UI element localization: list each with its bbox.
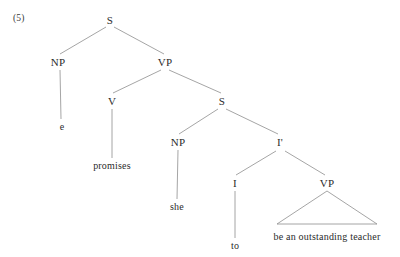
- tree-branch-s-embedded-to-i-bar: [226, 109, 278, 134]
- tree-node-np-matrix: NP: [51, 56, 66, 68]
- tree-node-i-head: I: [233, 177, 237, 189]
- tree-node-vp-embedded: VP: [320, 177, 335, 189]
- tree-leaf-leaf-e: e: [60, 121, 65, 132]
- tree-node-vp-matrix: VP: [158, 56, 173, 68]
- tree-branch-np-embedded-to-leaf-she: [177, 150, 178, 199]
- tree-node-i-bar: I': [277, 136, 283, 148]
- triangle-group: [277, 191, 377, 224]
- tree-leaf-leaf-vp-phrase: be an outstanding teacher: [274, 231, 381, 242]
- tree-leaf-leaf-promises: promises: [93, 160, 131, 171]
- tree-leaf-leaf-to: to: [231, 240, 239, 251]
- tree-branch-vp-matrix-to-s-embedded: [169, 70, 221, 93]
- branch-group: [60, 27, 325, 238]
- tree-leaf-leaf-she: she: [170, 201, 184, 212]
- tree-node-s-root: S: [107, 14, 113, 26]
- syntax-tree-figure: (5) SNPVPVSNPI'IVP epromisesshetobe an o…: [0, 0, 400, 257]
- tree-branch-vp-matrix-to-v-matrix: [113, 70, 161, 93]
- tree-node-np-embedded: NP: [171, 136, 186, 148]
- tree-node-v-matrix: V: [108, 95, 116, 107]
- tree-triangle-vp-triangle: [277, 191, 377, 224]
- tree-branch-s-root-to-np-matrix: [60, 27, 106, 54]
- tree-branch-i-bar-to-i-head: [236, 151, 276, 175]
- tree-branch-s-root-to-vp-matrix: [114, 27, 164, 54]
- tree-node-s-embedded: S: [219, 95, 225, 107]
- tree-branch-i-bar-to-vp-embedded: [285, 151, 325, 175]
- tree-branch-s-embedded-to-np-embedded: [179, 109, 218, 134]
- tree-branch-np-matrix-to-leaf-e: [60, 70, 61, 119]
